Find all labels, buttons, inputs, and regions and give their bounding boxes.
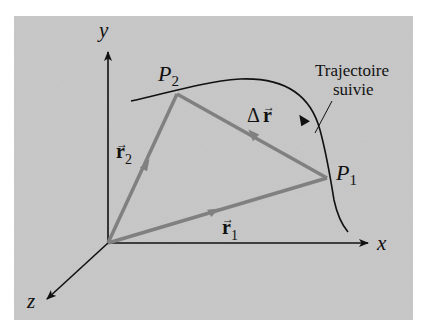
y-axis-label: y [97,18,109,42]
svg-text:Δ: Δ [247,104,260,126]
svg-text:1: 1 [231,228,238,243]
trajectory-label-line1: Trajectoire [315,61,389,80]
x-axis-label: x [376,231,387,255]
displacement-vector-diagram: y x z P2 P1 r → 2 r → 1 Δ r → Trajectoir… [0,0,430,331]
svg-text:→: → [263,100,275,114]
svg-text:→: → [222,212,234,226]
svg-text:2: 2 [125,152,132,167]
trajectory-label-line2: suivie [333,80,374,99]
z-axis-label: z [26,289,35,313]
svg-text:→: → [116,137,128,151]
